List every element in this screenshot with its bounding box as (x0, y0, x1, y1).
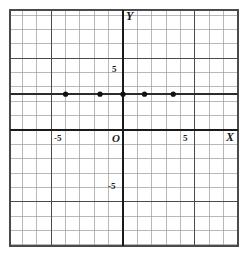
coordinate-grid-figure (0, 0, 249, 260)
x-tick-label-positive-5: 5 (183, 134, 188, 143)
data-point (142, 92, 147, 97)
data-point (63, 92, 68, 97)
y-axis-label: Y (126, 10, 133, 22)
data-point (120, 92, 125, 97)
y-tick-label-positive-5: 5 (112, 65, 117, 74)
x-axis-label: X (226, 131, 234, 143)
data-point (171, 92, 176, 97)
y-tick-label-negative-5: -5 (108, 182, 116, 191)
x-tick-label-negative-5: -5 (54, 134, 62, 143)
data-point (97, 92, 102, 97)
origin-label: O (112, 133, 120, 144)
